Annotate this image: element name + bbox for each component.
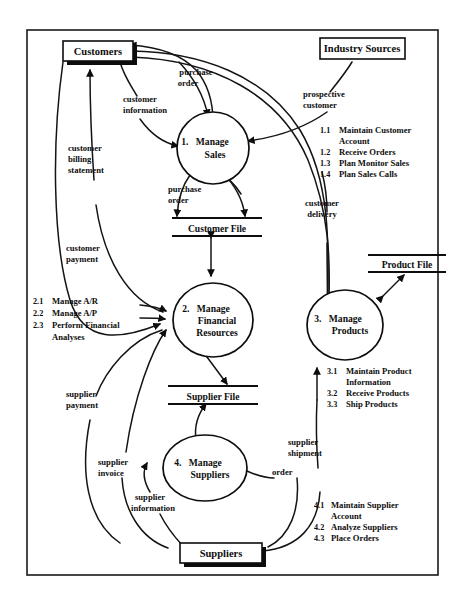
svg-text:information: information [123, 105, 167, 115]
svg-text:customer: customer [68, 143, 102, 153]
svg-text:purchase: purchase [168, 184, 201, 194]
list-2-item-0-num: 2.1 [33, 297, 43, 306]
list-4-item-2-text: Place Orders [331, 533, 380, 543]
list-2-item-0-text: Manage A/R [52, 296, 99, 306]
flow-process2-supplier-file [207, 357, 227, 384]
svg-text:shipment: shipment [288, 448, 322, 458]
process-1-name-line1: Manage [196, 136, 230, 147]
list-4-item-0-text: Maintain Supplier [331, 500, 399, 510]
list-1-item-2-text: Plan Monitor Sales [339, 158, 410, 168]
process-1-number: 1. [181, 136, 188, 147]
list-4-item-1-num: 4.2 [314, 523, 324, 532]
flow-prospective-customer-stub [330, 62, 352, 92]
process-4-name-line2: Suppliers [191, 469, 230, 480]
svg-text:billing: billing [68, 154, 92, 164]
process-2-number: 2. [182, 303, 189, 314]
process-2-name-line3: Resources [196, 327, 238, 338]
sub-process-list-4: 4.1 Maintain Supplier Account 4.2 Analyz… [314, 500, 399, 543]
flow-label-customer-information: customer information [123, 94, 167, 115]
flow-supplier-information-stub [160, 514, 182, 545]
data-store-supplier-file-label: Supplier File [187, 391, 241, 402]
process-3-name-line1: Manage [329, 313, 363, 324]
list-2-item-1-num: 2.2 [33, 309, 43, 318]
flow-customer-information [140, 119, 178, 146]
external-entity-customers[interactable]: Customers [63, 41, 137, 65]
flow-order-to-suppliers [268, 478, 298, 547]
flow-order-stub [247, 471, 274, 478]
svg-text:delivery: delivery [307, 209, 337, 219]
flow-supplier-invoice-lower [122, 478, 168, 548]
flow-label-supplier-payment: supplier payment [66, 389, 98, 410]
data-store-product-file-label: Product File [382, 259, 433, 270]
process-3-number: 3. [314, 313, 321, 324]
list-4-item-0-num: 4.1 [314, 501, 324, 510]
list-1-item-0-num: 1.1 [320, 126, 330, 135]
flow-label-supplier-shipment: supplier shipment [288, 437, 322, 458]
svg-text:order: order [178, 78, 199, 88]
flow-label-customer-delivery: customer delivery [305, 198, 339, 219]
process-4-name-line1: Manage [189, 457, 223, 468]
data-store-customer-file-label: Customer File [188, 223, 247, 234]
flow-label-order: order [272, 467, 293, 477]
flow-label-supplier-invoice: supplier invoice [98, 457, 128, 478]
list-2-item-2-text2: Analyses [52, 332, 85, 342]
process-1-number-name: 1. Manage [181, 136, 229, 147]
list-4-item-1-text: Analyze Suppliers [331, 522, 398, 532]
svg-text:supplier: supplier [98, 457, 128, 467]
data-store-supplier-file[interactable]: Supplier File [168, 386, 258, 404]
list-2-item-2-num: 2.3 [33, 321, 43, 330]
external-entity-suppliers[interactable]: Suppliers [180, 543, 266, 567]
list-4-item-0-text2: Account [331, 511, 362, 521]
process-3-manage-products[interactable]: 3. Manage Products [307, 290, 383, 360]
process-4-number-name: 4. Manage [174, 457, 222, 468]
dfd-canvas: Customer File Supplier File Product File… [0, 0, 465, 605]
svg-text:supplier: supplier [66, 389, 96, 399]
list-3-item-2-text: Ship Products [346, 399, 398, 409]
flow-supplier-payment-lower [86, 420, 120, 543]
process-2-name-line2: Financial [198, 315, 237, 326]
svg-text:information: information [131, 503, 175, 513]
list-1-item-3-text: Plan Sales Calls [339, 169, 398, 179]
flow-label-prospective-customer: prospective customer [303, 89, 345, 110]
list-4-item-2-num: 4.3 [314, 534, 324, 543]
list-1-item-2-num: 1.3 [320, 159, 330, 168]
svg-text:customer: customer [303, 100, 337, 110]
external-entity-industry-sources[interactable]: Industry Sources [320, 38, 405, 59]
process-1-manage-sales[interactable]: 1. Manage Sales [177, 112, 249, 184]
list-3-item-0-text2: Information [346, 377, 391, 387]
svg-text:supplier: supplier [288, 437, 318, 447]
list-3-item-0-num: 3.1 [327, 367, 337, 376]
flow-process3-product-file [383, 275, 404, 296]
process-2-number-name: 2. Manage [182, 303, 230, 314]
list-1-item-1-num: 1.2 [320, 148, 330, 157]
external-entity-customers-label: Customers [74, 46, 122, 57]
svg-text:payment: payment [66, 400, 98, 410]
svg-text:invoice: invoice [98, 468, 124, 478]
list-3-item-2-num: 3.3 [327, 400, 337, 409]
svg-text:purchase: purchase [179, 67, 212, 77]
flow-supplier-payment-upper [96, 330, 162, 396]
svg-text:order: order [168, 195, 189, 205]
process-1-name-line2: Sales [205, 149, 226, 160]
process-3-number-name: 3. Manage [314, 313, 362, 324]
sub-process-list-1: 1.1 Maintain Customer Account 1.2 Receiv… [320, 125, 412, 179]
flow-label-supplier-information: supplier information [131, 492, 175, 513]
list-2-item-1-text: Manage A/P [52, 308, 97, 318]
svg-text:customer: customer [66, 243, 100, 253]
list-1-item-3-num: 1.4 [320, 170, 330, 179]
process-4-manage-suppliers[interactable]: 4. Manage Suppliers [163, 435, 247, 501]
flow-label-purchase-order-top: purchase order [178, 67, 213, 88]
process-2-manage-financial-resources[interactable]: 2. Manage Financial Resources [173, 283, 253, 357]
flow-label-customer-billing-statement: customer billing statement [68, 143, 104, 175]
list-2-item-2-text: Perform Financial [52, 320, 120, 330]
external-entity-suppliers-label: Suppliers [200, 548, 243, 559]
flow-customer-information-stub [120, 62, 137, 96]
flow-into-process2-b [140, 318, 165, 319]
process-2-name-line1: Manage [197, 303, 231, 314]
process-4-number: 4. [174, 457, 181, 468]
list-3-item-1-text: Receive Products [346, 388, 410, 398]
data-store-customer-file[interactable]: Customer File [172, 218, 262, 236]
svg-text:prospective: prospective [303, 89, 345, 99]
data-store-product-file[interactable]: Product File [368, 255, 446, 272]
list-1-item-0-text2: Account [339, 136, 370, 146]
